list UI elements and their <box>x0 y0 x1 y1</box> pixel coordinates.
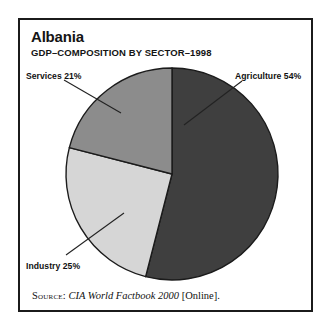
source-note: Source: CIA World Factbook 2000 [Online]… <box>32 290 220 301</box>
pie-label-agriculture: Agriculture 54% <box>235 71 301 81</box>
pie-label-industry: Industry 25% <box>26 261 80 271</box>
source-work-title: CIA World Factbook 2000 <box>69 290 180 301</box>
page-title: Albania <box>31 29 291 45</box>
chart-subtitle: GDP–COMPOSITION BY SECTOR–1998 <box>31 47 291 59</box>
title-block: Albania GDP–COMPOSITION BY SECTOR–1998 <box>31 29 291 59</box>
source-suffix: [Online]. <box>182 290 220 301</box>
figure-container: Albania GDP–COMPOSITION BY SECTOR–1998 S… <box>0 0 332 334</box>
source-kicker: Source: <box>32 290 66 301</box>
pie-label-services: Services 21% <box>26 71 82 81</box>
